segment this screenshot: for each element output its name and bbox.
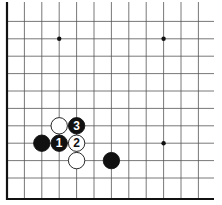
star-point	[161, 37, 165, 41]
move-number: 1	[56, 136, 63, 150]
move-number: 3	[73, 119, 80, 133]
black-stone: 3	[68, 118, 84, 134]
black-stone: 1	[51, 135, 67, 151]
go-board: 312	[0, 0, 222, 205]
star-point	[57, 37, 61, 41]
move-number: 2	[73, 136, 80, 150]
star-point	[161, 141, 165, 145]
white-stone	[68, 152, 84, 168]
white-stone	[51, 118, 67, 134]
black-stone	[34, 135, 50, 151]
white-stone: 2	[68, 135, 84, 151]
black-stone	[103, 152, 119, 168]
board-grid	[6, 2, 214, 200]
